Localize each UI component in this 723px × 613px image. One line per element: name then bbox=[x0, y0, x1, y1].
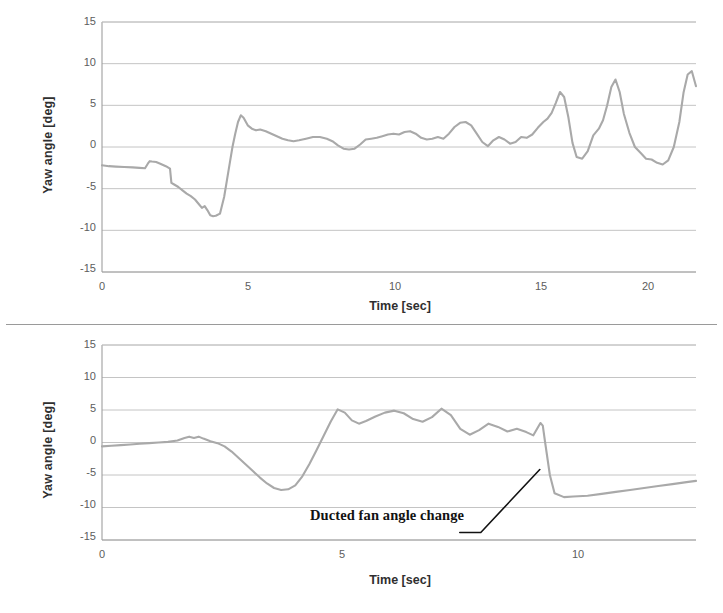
chart-panel-bottom: Yaw angle [deg] 15 10 5 0 -5 -10 -15 0 5… bbox=[0, 326, 723, 613]
chart-panel-top: Yaw angle [deg] 15 10 5 0 -5 -10 -15 0 5… bbox=[0, 0, 723, 322]
annotation-leader-ducted-fan-angle-change bbox=[460, 470, 540, 533]
panel-separator bbox=[6, 324, 717, 325]
plot-area-top bbox=[0, 0, 723, 322]
yaw-angle-figure: Yaw angle [deg] 15 10 5 0 -5 -10 -15 0 5… bbox=[0, 0, 723, 613]
data-series-line-0 bbox=[102, 71, 696, 216]
data-series-line-0 bbox=[102, 409, 696, 497]
plot-area-bottom bbox=[0, 326, 723, 613]
